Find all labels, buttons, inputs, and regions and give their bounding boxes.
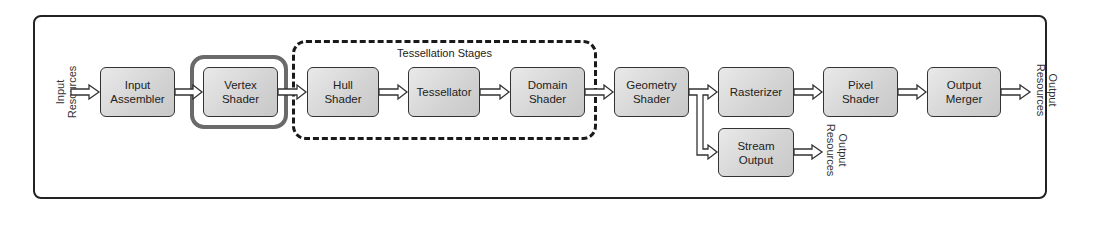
stream-output-resources-label: Output Resources: [825, 120, 849, 180]
stage-vertex-shader: VertexShader: [203, 67, 278, 117]
stage-label-line1: Input: [110, 78, 164, 92]
stage-label-line1: Vertex: [222, 78, 259, 92]
stage-input-assembler: InputAssembler: [100, 67, 175, 117]
stream-output-resources-line1: Output: [837, 120, 849, 180]
stage-pixel-shader: PixelShader: [823, 67, 898, 117]
stage-stream-output: StreamOutput: [718, 128, 794, 177]
stage-geometry-shader: GeometryShader: [614, 67, 689, 117]
stage-label-line2: Shader: [222, 92, 259, 106]
stage-label-line1: Tessellator: [417, 85, 472, 99]
stage-label-line2: Output: [737, 153, 774, 167]
output-resources-label: Output Resources: [1035, 60, 1059, 120]
stage-label-line1: Pixel: [842, 78, 879, 92]
stage-label-line1: Hull: [324, 78, 361, 92]
stage-label-line1: Rasterizer: [730, 85, 782, 99]
stage-label-line1: Output: [946, 78, 982, 92]
output-resources-line2: Resources: [1035, 60, 1047, 120]
stage-label-line1: Stream: [737, 139, 774, 153]
stream-output-resources-line2: Resources: [825, 120, 837, 180]
output-resources-line1: Output: [1047, 60, 1059, 120]
stage-label-line2: Shader: [324, 92, 361, 106]
stage-label-line2: Shader: [842, 92, 879, 106]
stage-label-line2: Shader: [626, 92, 677, 106]
stage-label-line2: Shader: [528, 92, 568, 106]
stage-rasterizer: Rasterizer: [718, 67, 794, 117]
stage-domain-shader: DomainShader: [510, 67, 585, 117]
stage-label-line1: Geometry: [626, 78, 677, 92]
stage-label-line2: Merger: [946, 92, 982, 106]
stage-label-line2: Assembler: [110, 92, 164, 106]
stage-tessellator: Tessellator: [408, 67, 480, 117]
stage-label-line1: Domain: [528, 78, 568, 92]
stage-hull-shader: HullShader: [307, 67, 379, 117]
stage-output-merger: OutputMerger: [927, 67, 1001, 117]
